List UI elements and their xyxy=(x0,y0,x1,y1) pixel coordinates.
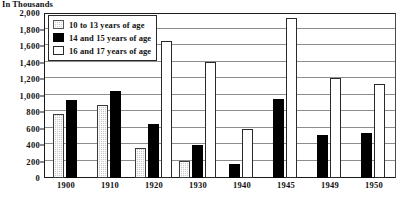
x-tick-label-1910: 1910 xyxy=(101,180,119,190)
x-axis: 19001910192019301940194519491950 xyxy=(44,180,396,200)
x-tick-label-1930: 1930 xyxy=(189,180,207,190)
bar-1950-series1 xyxy=(361,133,372,178)
bar-1920-series1 xyxy=(148,124,159,178)
bar-1920-series2 xyxy=(161,41,172,178)
bar-1910-series1 xyxy=(110,91,121,178)
bar-1950-series2 xyxy=(374,84,385,178)
legend-item-1: 14 and 15 years of age xyxy=(53,31,151,44)
open-white-square-icon xyxy=(53,46,64,55)
y-tick-label: 1,400 xyxy=(19,58,40,68)
bar-chart: In Thousands 02004006008001,0001,2001,40… xyxy=(0,0,398,202)
legend-item-label: 10 to 13 years of age xyxy=(69,20,145,30)
bar-group-1940 xyxy=(220,13,264,178)
y-tick-label: 1,600 xyxy=(19,41,40,51)
x-tick-label-1949: 1949 xyxy=(321,180,339,190)
legend-item-label: 14 and 15 years of age xyxy=(69,33,151,43)
legend-item-2: 16 and 17 years of age xyxy=(53,44,151,57)
bar-group-1930 xyxy=(176,13,220,178)
bar-1930-series0 xyxy=(179,161,190,178)
bar-1930-series2 xyxy=(205,62,216,178)
bar-1945-series1 xyxy=(273,99,284,178)
y-tick-label: 1,000 xyxy=(19,91,40,101)
y-tick-label: 400 xyxy=(26,140,40,150)
filled-black-square-icon xyxy=(53,33,64,42)
y-tick-label: 600 xyxy=(26,124,40,134)
bar-1949-series1 xyxy=(317,135,328,178)
x-tick-label-1920: 1920 xyxy=(145,180,163,190)
bar-1910-series0 xyxy=(97,105,108,178)
bar-1900-series0 xyxy=(53,114,64,178)
y-tick-label: 1,200 xyxy=(19,74,40,84)
bar-1920-series0 xyxy=(135,148,146,178)
y-tick-label: 800 xyxy=(26,107,40,117)
y-axis: 02004006008001,0001,2001,4001,6001,8002,… xyxy=(0,0,44,202)
bar-group-1950 xyxy=(352,13,396,178)
legend-item-0: 10 to 13 years of age xyxy=(53,18,151,31)
bar-1945-series2 xyxy=(286,18,297,178)
legend: 10 to 13 years of age14 and 15 years of … xyxy=(48,15,157,61)
x-tick-label-1940: 1940 xyxy=(233,180,251,190)
y-tick-label: 200 xyxy=(26,157,40,167)
bar-group-1945 xyxy=(264,13,308,178)
bar-1930-series1 xyxy=(192,145,203,178)
bar-1900-series1 xyxy=(66,100,77,178)
bar-1940-series2 xyxy=(242,129,253,179)
bar-1940-series1 xyxy=(229,164,240,178)
bar-group-1949 xyxy=(308,13,352,178)
dotted-gray-square-icon xyxy=(53,20,64,29)
x-tick-label-1950: 1950 xyxy=(365,180,383,190)
y-tick-label: 2,000 xyxy=(19,8,40,18)
bar-1949-series2 xyxy=(330,78,341,178)
y-tick-label: 0 xyxy=(35,173,40,183)
x-tick-label-1945: 1945 xyxy=(277,180,295,190)
legend-item-label: 16 and 17 years of age xyxy=(69,46,151,56)
y-tick-label: 1,800 xyxy=(19,25,40,35)
x-tick-label-1900: 1900 xyxy=(57,180,75,190)
